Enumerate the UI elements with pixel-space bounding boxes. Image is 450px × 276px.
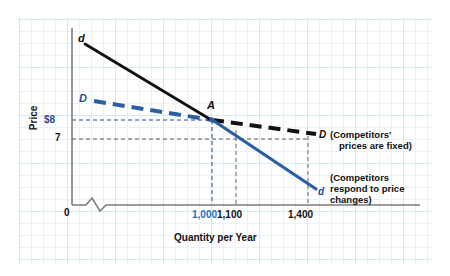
point-A-marker xyxy=(210,118,215,123)
point-A-label: A xyxy=(207,99,215,112)
x-tick-label-1400: 1,400 xyxy=(288,209,313,221)
callout-competitors-prices-fixed: (Competitors'prices are fixed) xyxy=(330,129,412,151)
origin-label: 0 xyxy=(64,207,70,219)
y-tick-label-8: $8 xyxy=(44,114,55,126)
series-d-upper xyxy=(85,44,213,121)
x-tick-label-1100: 1,100 xyxy=(217,209,242,221)
curve-label-d-top: d xyxy=(78,32,85,45)
y-axis-title: Price xyxy=(28,83,40,153)
x-axis-title: Quantity per Year xyxy=(174,232,257,244)
callout-competitors-respond: (Competitorsrespond to pricechanges) xyxy=(330,172,404,206)
curve-label-D-left: D xyxy=(79,92,87,105)
curve-label-d-right: d xyxy=(318,186,324,198)
callout-fixed-line-2: prices are fixed) xyxy=(330,140,412,151)
callout-respond-line-1: (Competitors xyxy=(330,172,389,183)
chart-figure: d D A D (Competitors'prices are fixed) d… xyxy=(0,0,450,276)
series-d-lower xyxy=(211,119,316,189)
callout-respond-line-3: changes) xyxy=(330,194,372,205)
x-tick-label-1000: 1,000 xyxy=(192,209,217,221)
curve-label-D-right: D xyxy=(319,129,326,141)
callout-fixed-line-1: (Competitors' xyxy=(330,129,391,140)
callout-respond-line-2: respond to price xyxy=(330,183,404,194)
y-tick-label-7: 7 xyxy=(55,132,61,144)
